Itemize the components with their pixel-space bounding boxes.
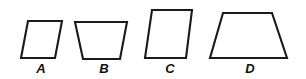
shape-label-c: C [165, 62, 174, 75]
shape-b-parallelogram [75, 22, 127, 59]
shape-c-parallelogram [145, 10, 192, 58]
quadrilaterals-figure: A B C D [0, 0, 306, 79]
shape-a-parallelogram [21, 21, 62, 58]
shape-label-a: A [36, 62, 45, 75]
shape-d-trapezoid [210, 13, 287, 58]
shapes-canvas [0, 0, 306, 79]
shape-label-d: D [245, 62, 254, 75]
shape-label-b: B [99, 62, 108, 75]
